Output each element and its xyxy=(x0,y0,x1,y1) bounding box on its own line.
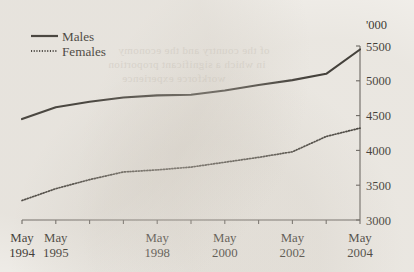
x-axis-tick-label: May xyxy=(10,231,34,245)
chart-series-group xyxy=(22,49,360,200)
y-axis-tick-label: 5500 xyxy=(366,40,391,54)
x-axis-tick-label: 1994 xyxy=(9,246,35,260)
y-axis-unit-label: '000 xyxy=(366,18,387,32)
x-axis-tick-label: May xyxy=(44,231,68,245)
chart-axes xyxy=(22,46,360,224)
x-axis-tick-label: May xyxy=(348,231,372,245)
y-axis-tick-label: 3000 xyxy=(366,214,391,228)
x-axis-tick-label: 2004 xyxy=(347,246,373,260)
y-axis-ticks xyxy=(356,46,360,220)
x-axis-ticks xyxy=(22,220,360,224)
series-line-males xyxy=(22,49,360,119)
x-axis-tick-label: May xyxy=(213,231,237,245)
legend-label-females: Females xyxy=(62,44,106,59)
x-axis-tick-label: 2002 xyxy=(280,246,306,260)
chart-plot-area: 300035004000450050005500 May1994May1995M… xyxy=(0,0,414,272)
y-axis-tick-label: 4000 xyxy=(366,144,391,158)
y-axis-tick-label: 3500 xyxy=(366,179,391,193)
y-axis-tick-label: 5000 xyxy=(366,74,391,88)
y-axis-tick-labels: 300035004000450050005500 xyxy=(366,40,391,228)
y-axis-tick-label: 4500 xyxy=(366,109,391,123)
chart-legend: Males Females xyxy=(31,29,106,59)
x-axis-tick-label: 1995 xyxy=(43,246,69,260)
x-axis-tick-label: May xyxy=(281,231,305,245)
x-axis-tick-label: 1998 xyxy=(144,246,170,260)
legend-label-males: Males xyxy=(62,29,94,44)
line-chart: of the country and the economy in which … xyxy=(0,0,414,272)
x-axis-tick-label: 2000 xyxy=(212,246,238,260)
x-axis-tick-label: May xyxy=(145,231,169,245)
series-line-females xyxy=(22,128,360,200)
x-axis-tick-labels: May1994May1995May1998May2000May2002May20… xyxy=(9,231,373,260)
